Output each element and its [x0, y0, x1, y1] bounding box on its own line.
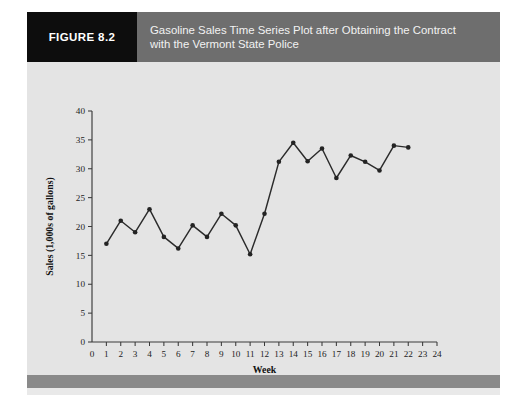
- x-axis-tick-label: 11: [246, 349, 255, 359]
- y-axis-tick-label: 35: [76, 135, 86, 145]
- data-point-marker: [392, 143, 397, 148]
- x-axis-tick-label: 24: [432, 349, 442, 359]
- x-axis-tick-label: 9: [219, 349, 224, 359]
- chart-body: 0510152025303540012345678910111213141516…: [27, 62, 500, 375]
- figure-title-line-1: Gasoline Sales Time Series Plot after Ob…: [150, 24, 456, 36]
- data-point-marker: [118, 218, 123, 223]
- x-axis-tick-label: 3: [133, 349, 138, 359]
- x-axis-tick-label: 19: [361, 349, 371, 359]
- data-series-line: [106, 143, 408, 254]
- y-axis-tick-label: 15: [76, 251, 86, 261]
- figure-title: Gasoline Sales Time Series Plot after Ob…: [150, 23, 456, 52]
- data-point-marker: [291, 140, 296, 145]
- x-axis-tick-label: 2: [118, 349, 123, 359]
- x-axis-tick-label: 14: [289, 349, 299, 359]
- figure-number-label: FIGURE 8.2: [49, 31, 116, 43]
- data-point-marker: [205, 235, 210, 240]
- x-axis-tick-label: 13: [274, 349, 284, 359]
- figure-title-line-2: with the Vermont State Police: [150, 38, 299, 50]
- data-point-marker: [248, 252, 253, 257]
- data-point-marker: [406, 145, 411, 150]
- figure-header: FIGURE 8.2 Gasoline Sales Time Series Pl…: [27, 12, 500, 62]
- data-point-marker: [320, 146, 325, 151]
- data-point-marker: [363, 160, 368, 165]
- x-axis-tick-label: 18: [346, 349, 356, 359]
- time-series-chart: 0510152025303540012345678910111213141516…: [27, 62, 500, 375]
- data-point-marker: [133, 230, 138, 235]
- data-point-marker: [305, 159, 310, 164]
- y-axis-label: Sales (1,000s of gallons): [44, 177, 56, 276]
- x-axis-tick-label: 1: [104, 349, 109, 359]
- x-axis-tick-label: 20: [375, 349, 385, 359]
- x-axis-tick-label: 23: [418, 349, 428, 359]
- data-point-marker: [162, 235, 167, 240]
- figure-footer-bar: [27, 375, 500, 388]
- data-point-marker: [277, 160, 282, 165]
- data-point-marker: [147, 207, 152, 212]
- figure-panel: FIGURE 8.2 Gasoline Sales Time Series Pl…: [27, 12, 500, 395]
- x-axis-label: Week: [253, 364, 277, 375]
- data-point-marker: [377, 168, 382, 173]
- x-axis-tick-label: 7: [190, 349, 195, 359]
- x-axis-tick-label: 6: [176, 349, 181, 359]
- data-point-marker: [176, 246, 181, 251]
- x-axis-tick-label: 5: [162, 349, 167, 359]
- data-point-marker: [334, 176, 339, 181]
- data-point-marker: [104, 242, 109, 247]
- x-axis-tick-label: 16: [317, 349, 327, 359]
- y-axis-tick-label: 10: [76, 279, 86, 289]
- x-axis-tick-label: 21: [389, 349, 399, 359]
- x-axis-tick-label: 17: [332, 349, 342, 359]
- data-point-marker: [219, 212, 224, 217]
- y-axis-tick-label: 30: [76, 164, 86, 174]
- data-point-marker: [262, 212, 267, 217]
- data-point-marker: [190, 223, 195, 228]
- data-point-marker: [233, 223, 238, 228]
- x-axis-tick-label: 4: [147, 349, 152, 359]
- figure-number-box: FIGURE 8.2: [27, 12, 137, 62]
- x-axis-tick-label: 12: [260, 349, 270, 359]
- x-axis-tick-label: 22: [404, 349, 414, 359]
- x-axis-tick-label: 10: [231, 349, 241, 359]
- x-axis-tick-label: 15: [303, 349, 313, 359]
- x-axis-tick-label: 8: [205, 349, 210, 359]
- figure-title-box: Gasoline Sales Time Series Plot after Ob…: [137, 12, 500, 62]
- y-axis-tick-label: 5: [80, 308, 85, 318]
- y-axis-tick-label: 0: [80, 337, 85, 347]
- y-axis-tick-label: 40: [76, 106, 86, 116]
- data-point-marker: [348, 153, 353, 158]
- y-axis-tick-label: 25: [76, 193, 86, 203]
- y-axis-tick-label: 20: [76, 222, 86, 232]
- x-axis-tick-label: 0: [90, 349, 95, 359]
